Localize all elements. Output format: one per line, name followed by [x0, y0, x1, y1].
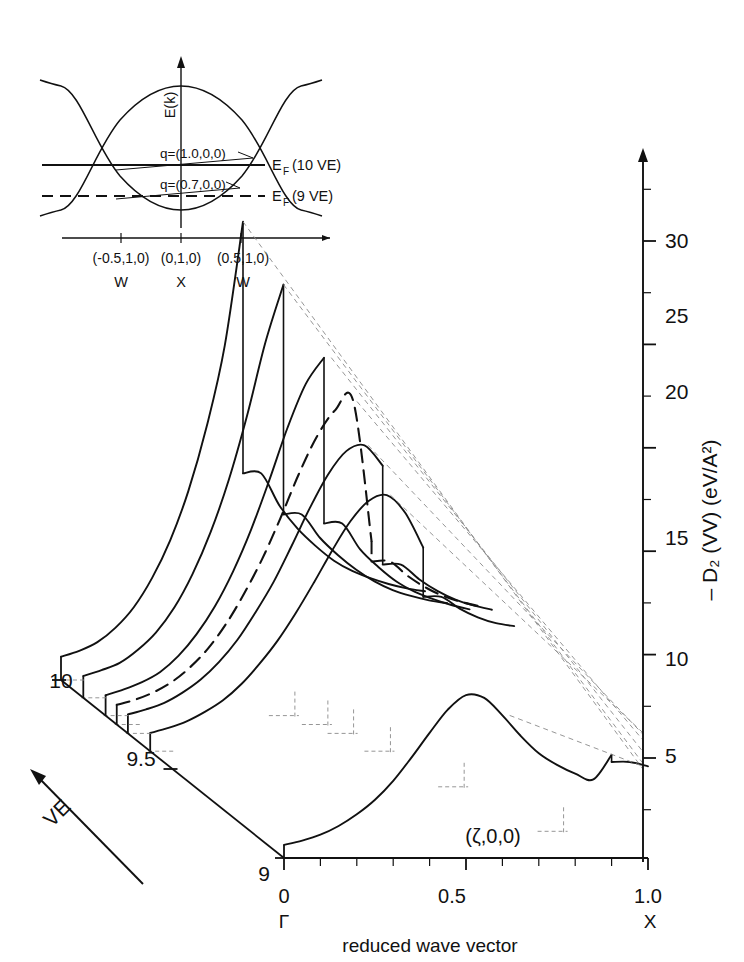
figure-root: E(k) q=(1.0,0,0) q=(0.7,0,0) E F (10 VE)…: [0, 0, 744, 962]
inset-band-leg-d: [301, 80, 322, 86]
inset-energy-axis-arrow: [177, 56, 185, 68]
x-axis-title: reduced wave vector: [342, 935, 518, 956]
fermi-label-9ve-sub: F: [283, 197, 289, 208]
inset-klabel-wleft: (-0.5,1,0): [93, 250, 150, 266]
baseline-crossmark-0: [269, 692, 299, 720]
baseline-crossmark-5: [538, 807, 568, 835]
ytick-label-10: 10: [665, 647, 688, 670]
xtick-label-10: 1.0: [634, 885, 662, 907]
z-axis-title: VE: [39, 795, 75, 831]
ztick-label-9: 9: [258, 862, 270, 885]
inset-k-axis-arrow: [322, 235, 330, 241]
xtick-label-05: 0.5: [438, 885, 466, 907]
fermi-label-9ve: E F (9 VE): [272, 188, 333, 208]
inset-band-leg-a: [40, 210, 61, 216]
q-vector-10-tick: [238, 152, 253, 158]
fermi-label-10ve-rest: (10 VE): [292, 157, 341, 173]
waterfall-curve-6-rise: [284, 694, 612, 845]
xtick-label-0: 0: [278, 885, 289, 907]
q-vector-07-tick: [226, 182, 240, 188]
baseline-crossmark-2: [328, 709, 358, 737]
fermi-label-10ve: E F (10 VE): [272, 157, 341, 177]
q-vector-label-10: q=(1.0,0,0): [160, 146, 226, 161]
wave-vector-annotation: (ζ,0,0): [465, 825, 521, 847]
y-axis-arrow: [638, 148, 648, 162]
axis-labels: 0 0.5 1.0 Γ X reduced wave vector (ζ,0,0…: [39, 229, 721, 956]
figure-svg: E(k) q=(1.0,0,0) q=(0.7,0,0) E F (10 VE)…: [0, 0, 744, 962]
waterfall-depth-guide-0: [243, 222, 643, 770]
fermi-label-10ve-e: E: [272, 157, 282, 173]
waterfall-depth-guide-5: [390, 495, 643, 733]
inset-klabel-x: (0,1,0): [161, 250, 201, 266]
band-structure-inset: E(k) q=(1.0,0,0) q=(0.7,0,0) E F (10 VE)…: [40, 56, 341, 290]
waterfall-curve-0-rise: [61, 222, 243, 657]
waterfall-curve-4-rise: [128, 445, 383, 715]
inset-band-leg-c: [40, 80, 61, 86]
ve-direction-arrow-shaft: [36, 775, 143, 884]
inset-point-wleft: W: [114, 274, 128, 290]
waterfall-curve-0-tail: [243, 471, 425, 591]
baseline-crossmark-1: [302, 701, 332, 729]
y-axis-title-group: – D₂ (VV) (eV/A²): [698, 439, 721, 600]
y-axis-title: – D₂ (VV) (eV/A²): [698, 439, 721, 600]
ytick-label-15: 15: [665, 526, 688, 549]
x-endpoint-x: X: [644, 911, 657, 932]
inset-band-leg-b: [301, 210, 322, 216]
ytick-label-25: 25: [665, 304, 688, 327]
ytick-label-5: 5: [665, 744, 677, 767]
fermi-label-9ve-e: E: [272, 188, 282, 204]
ytick-label-20: 20: [665, 380, 688, 403]
baseline-crossmark-3: [364, 727, 394, 755]
fermi-label-9ve-rest: (9 VE): [292, 188, 333, 204]
ztick-label-10: 10: [49, 669, 72, 692]
inset-energy-axis-label: E(k): [162, 92, 178, 119]
baseline-crossmark-4: [438, 763, 468, 791]
ztick-label-95: 9.5: [126, 747, 155, 770]
x-endpoint-gamma: Γ: [279, 911, 289, 932]
waterfall-curve-2-rise: [106, 358, 324, 696]
waterfall-depth-guide-2: [331, 358, 643, 752]
q-vector-label-07: q=(0.7,0,0): [160, 177, 226, 192]
waterfall-depth-guide-6: [510, 715, 643, 766]
ytick-label-30: 30: [665, 229, 688, 252]
inset-point-x: X: [176, 274, 186, 290]
fermi-label-10ve-sub: F: [283, 166, 289, 177]
waterfall-depth-guide-1: [284, 285, 644, 764]
